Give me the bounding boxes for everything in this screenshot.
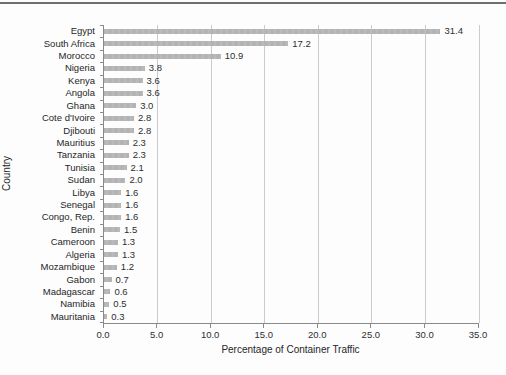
category-label: Mozambique [0, 261, 99, 273]
y-axis-tick [100, 186, 104, 187]
category-label: Benin [0, 224, 99, 236]
category-label: Angola [0, 87, 99, 99]
x-axis-tick-label: 35.0 [458, 329, 498, 340]
bar-mozambique [104, 265, 117, 270]
y-axis-tick [100, 112, 104, 113]
bar-value-label: 3.6 [147, 87, 160, 99]
category-label: Egypt [0, 25, 99, 37]
bar-cote-d-ivoire [104, 116, 134, 121]
category-label: Madagascar [0, 286, 99, 298]
category-label: Mauritius [0, 137, 99, 149]
bar-mauritius [104, 140, 129, 145]
category-label: Algeria [0, 249, 99, 261]
x-axis-tick-label: 5.0 [137, 329, 177, 340]
bar-value-label: 1.6 [125, 187, 138, 199]
bar-nigeria [104, 66, 145, 71]
bar-value-label: 1.6 [125, 211, 138, 223]
category-label: Libya [0, 187, 99, 199]
y-axis-tick [100, 261, 104, 262]
bar-value-label: 0.5 [113, 298, 126, 310]
gridline-x-35 [479, 25, 480, 323]
y-axis-tick [100, 124, 104, 125]
category-label: Mauritania [0, 311, 99, 323]
y-axis-tick [100, 298, 104, 299]
bar-value-label: 2.3 [133, 149, 146, 161]
category-label: Cote d'Ivoire [0, 112, 99, 124]
y-axis-tick [100, 100, 104, 101]
y-axis-tick [100, 224, 104, 225]
gridline-x-30 [425, 25, 426, 323]
category-label: Morocco [0, 50, 99, 62]
gridline-x-15 [264, 25, 265, 323]
bar-senegal [104, 203, 121, 208]
bar-value-label: 1.5 [124, 224, 137, 236]
category-label: Tanzania [0, 149, 99, 161]
bar-value-label: 1.6 [125, 199, 138, 211]
container-traffic-bar-chart: Country EgyptSouth AfricaMoroccoNigeriaK… [0, 0, 506, 375]
y-axis-tick [100, 37, 104, 38]
x-axis-tick [424, 324, 425, 328]
y-axis-tick [100, 162, 104, 163]
x-axis-title: Percentage of Container Traffic [103, 344, 478, 355]
bar-value-label: 1.3 [122, 249, 135, 261]
bar-value-label: 17.2 [292, 38, 311, 50]
y-axis-tick [100, 311, 104, 312]
bar-ghana [104, 103, 136, 108]
y-axis-tick [100, 149, 104, 150]
x-axis-tick-label: 15.0 [244, 329, 284, 340]
bar-egypt [104, 29, 440, 34]
y-axis-tick [100, 236, 104, 237]
bar-mauritania [104, 314, 107, 319]
bar-kenya [104, 78, 143, 83]
y-axis-tick [100, 87, 104, 88]
category-label: Gabon [0, 274, 99, 286]
bar-value-label: 1.2 [121, 261, 134, 273]
bar-value-label: 2.8 [138, 125, 151, 137]
y-axis-tick [100, 286, 104, 287]
category-label: Ghana [0, 100, 99, 112]
bar-value-label: 10.9 [225, 50, 244, 62]
bar-tanzania [104, 153, 129, 158]
x-axis-tick [156, 324, 157, 328]
category-label: Senegal [0, 199, 99, 211]
bar-namibia [104, 302, 109, 307]
y-axis-tick [100, 75, 104, 76]
x-axis-tick [263, 324, 264, 328]
y-axis-tick [100, 273, 104, 274]
x-axis-tick-label: 30.0 [404, 329, 444, 340]
y-axis-tick [100, 211, 104, 212]
category-label: Nigeria [0, 62, 99, 74]
y-axis-tick [100, 137, 104, 138]
bar-value-label: 3.8 [149, 62, 162, 74]
bar-value-label: 0.7 [116, 274, 129, 286]
x-axis-tick [210, 324, 211, 328]
x-axis-tick [478, 324, 479, 328]
bar-libya [104, 190, 121, 195]
x-axis-tick [317, 324, 318, 328]
bar-value-label: 0.3 [111, 311, 124, 323]
y-axis-tick [100, 199, 104, 200]
gridline-x-10 [211, 25, 212, 323]
x-axis-tick-label: 20.0 [297, 329, 337, 340]
bar-congo-rep- [104, 215, 121, 220]
x-axis-tick-label: 10.0 [190, 329, 230, 340]
bar-value-label: 3.0 [140, 100, 153, 112]
bar-benin [104, 227, 120, 232]
bar-value-label: 2.0 [129, 174, 142, 186]
y-axis-tick [100, 50, 104, 51]
category-label: Djibouti [0, 125, 99, 137]
category-label: Namibia [0, 298, 99, 310]
category-label: Congo, Rep. [0, 211, 99, 223]
x-axis-tick-label: 0.0 [83, 329, 123, 340]
gridline-x-25 [371, 25, 372, 323]
x-axis-tick [103, 324, 104, 328]
bar-south-africa [104, 41, 288, 46]
bar-djibouti [104, 128, 134, 133]
bar-value-label: 2.1 [131, 162, 144, 174]
category-label: South Africa [0, 38, 99, 50]
category-label: Tunisia [0, 162, 99, 174]
bar-value-label: 3.6 [147, 75, 160, 87]
bar-algeria [104, 252, 118, 257]
bar-morocco [104, 54, 221, 59]
x-axis-tick [370, 324, 371, 328]
